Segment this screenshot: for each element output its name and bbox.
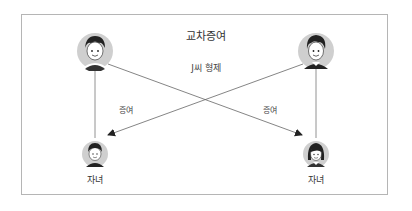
child-right-label: 자녀: [296, 173, 336, 186]
edge-label-gift-right: 증여: [263, 104, 277, 115]
parent-left-avatar-icon: [75, 31, 115, 71]
edge-label-gift-left: 증여: [119, 104, 133, 115]
connector-lines: [0, 0, 412, 211]
child-right-avatar-icon: [302, 140, 330, 168]
child-left-label: 자녀: [75, 173, 115, 186]
child-left-avatar-icon: [81, 140, 109, 168]
parent-right-avatar-icon: [296, 31, 336, 71]
